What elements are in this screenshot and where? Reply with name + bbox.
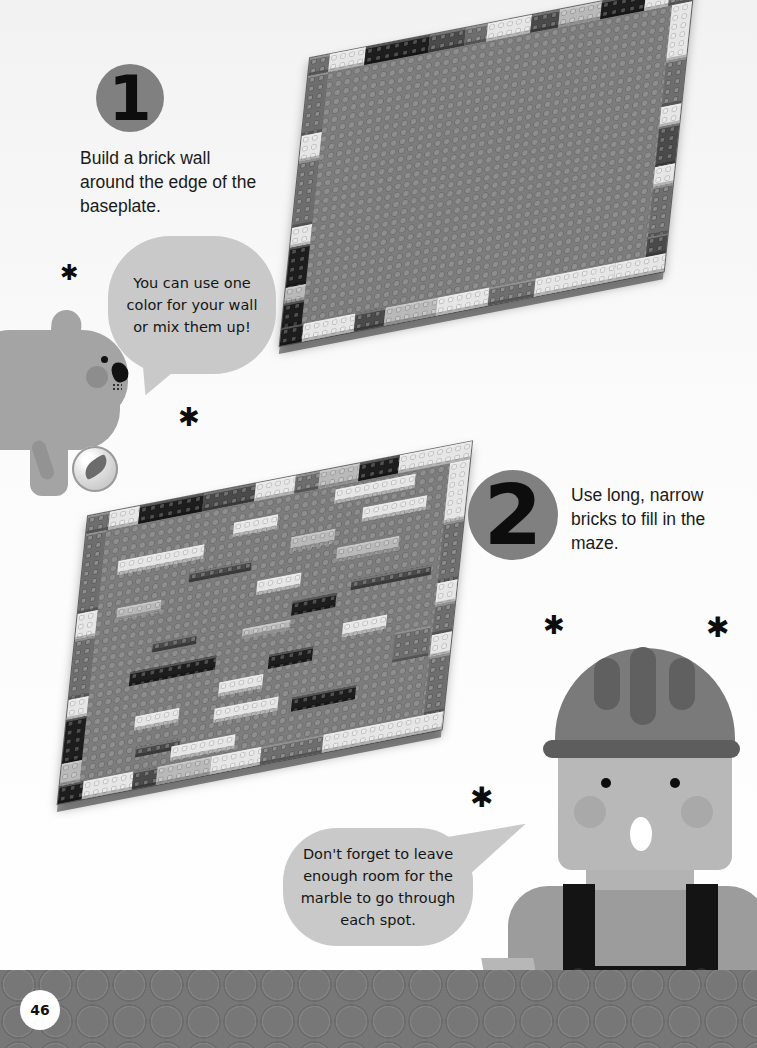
- page-number: 46: [20, 990, 60, 1030]
- step-1-badge: 1: [96, 64, 164, 132]
- dog-speech-text: You can use one color for your wall or m…: [120, 272, 264, 338]
- worker-eye-left: [601, 778, 611, 788]
- step-2-number: 2: [484, 466, 542, 564]
- worker-eye-right: [670, 778, 680, 788]
- dog-cheek: [86, 366, 108, 388]
- worker-speech-text: Don't forget to leave enough room for th…: [291, 843, 465, 931]
- footer-brick-band: [0, 970, 757, 1048]
- dog-speech-bubble: You can use one color for your wall or m…: [108, 236, 276, 374]
- worker-neck: [586, 870, 694, 890]
- dog-eye: [101, 356, 108, 363]
- step-1-number: 1: [108, 62, 151, 135]
- hard-hat-ridge: [669, 658, 695, 710]
- worker-cheek-left: [574, 796, 606, 828]
- step-2-badge: 2: [468, 470, 558, 560]
- asterisk-icon: ✱: [543, 612, 565, 638]
- asterisk-icon: ✱: [706, 614, 729, 642]
- page-number-text: 46: [30, 1002, 49, 1018]
- baseplate-wall-photo: [258, 0, 757, 410]
- baseplate-maze-photo: [48, 424, 538, 854]
- hard-hat-ridge: [594, 658, 620, 710]
- worker-cheek-right: [681, 796, 713, 828]
- hard-hat-brim: [543, 740, 740, 758]
- hard-hat-ridge: [630, 647, 656, 725]
- step-1-instruction: Build a brick wall around the edge of th…: [80, 146, 260, 218]
- dog-freckles: [112, 383, 122, 391]
- worker-mouth: [630, 817, 652, 851]
- asterisk-icon: ✱: [60, 262, 78, 284]
- step-2-instruction: Use long, narrow bricks to fill in the m…: [571, 483, 751, 555]
- worker-speech-bubble: Don't forget to leave enough room for th…: [283, 828, 473, 946]
